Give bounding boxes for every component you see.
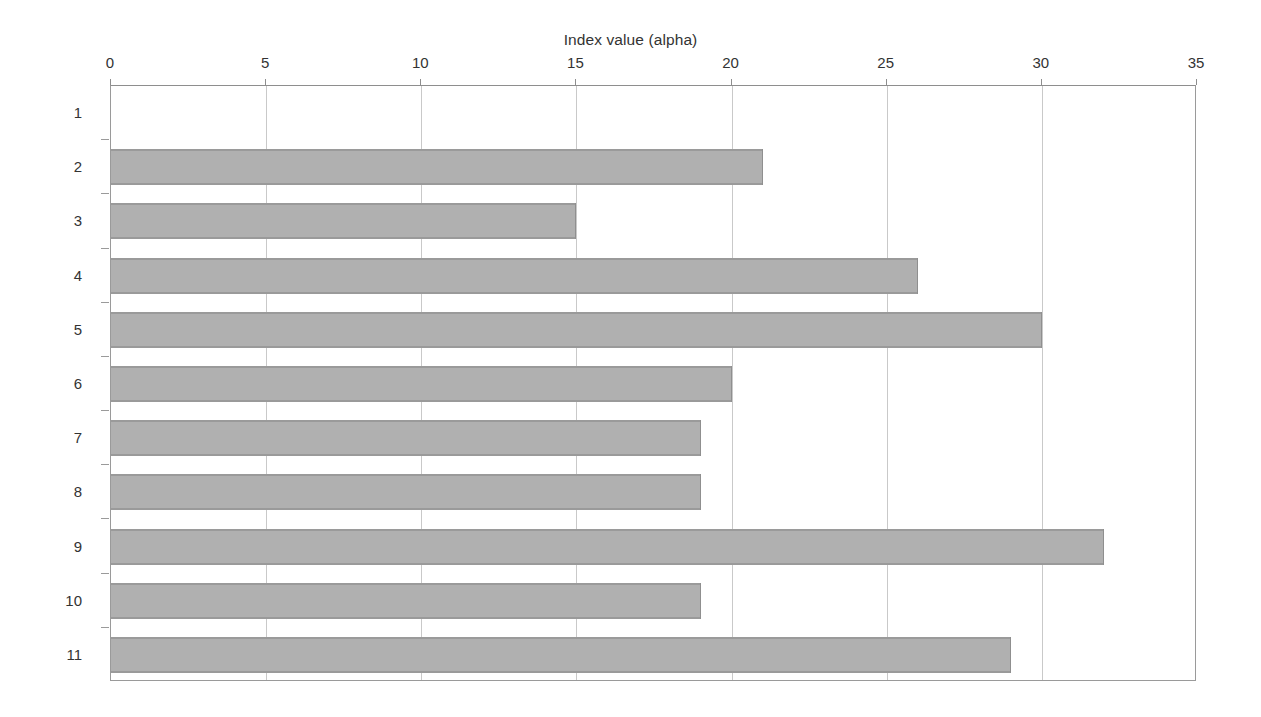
x-axis-tickmark <box>1196 79 1197 85</box>
x-axis-tickmark <box>420 79 421 85</box>
y-axis-tick-label: 5 <box>32 320 82 337</box>
y-axis-tickmark <box>101 573 109 574</box>
x-axis-tickmark <box>1041 79 1042 85</box>
y-axis-tick-label: 1 <box>32 104 82 121</box>
y-axis-tickmark <box>101 356 109 357</box>
x-axis-tick-label: 30 <box>1011 54 1071 71</box>
bar-sample-8 <box>111 474 701 510</box>
y-axis-tick-label: 9 <box>32 537 82 554</box>
gridline-x <box>887 86 888 680</box>
bar-sample-3 <box>111 203 576 239</box>
y-axis-tick-label: 4 <box>32 266 82 283</box>
y-axis-tick-label: 3 <box>32 212 82 229</box>
bar-sample-5 <box>111 312 1042 348</box>
bar-chart-figure: Index value (alpha) Sample number 051015… <box>0 0 1261 717</box>
y-axis-tick-label: 11 <box>32 645 82 662</box>
bar-sample-2 <box>111 149 763 185</box>
plot-area <box>110 85 1196 681</box>
y-axis-tickmark <box>101 302 109 303</box>
x-axis-tickmark <box>110 79 111 85</box>
y-axis-tick-label: 8 <box>32 483 82 500</box>
y-axis-tickmark <box>101 410 109 411</box>
y-axis-tick-label: 7 <box>32 429 82 446</box>
x-axis-tickmark <box>575 79 576 85</box>
bar-sample-6 <box>111 366 732 402</box>
x-axis-tick-label: 10 <box>390 54 450 71</box>
x-axis-tickmark <box>265 79 266 85</box>
y-axis-tickmark <box>101 627 109 628</box>
x-axis-tick-label: 20 <box>701 54 761 71</box>
y-axis-tick-label: 6 <box>32 375 82 392</box>
bar-sample-4 <box>111 258 918 294</box>
x-axis-tick-label: 25 <box>856 54 916 71</box>
x-axis-tick-label: 15 <box>545 54 605 71</box>
bar-sample-11 <box>111 637 1011 673</box>
x-axis-tickmark <box>731 79 732 85</box>
y-axis-tick-label: 2 <box>32 158 82 175</box>
bar-sample-9 <box>111 529 1104 565</box>
x-axis-tick-label: 5 <box>235 54 295 71</box>
bar-sample-7 <box>111 420 701 456</box>
x-axis-tickmark <box>886 79 887 85</box>
y-axis-tick-label: 10 <box>32 591 82 608</box>
y-axis-tickmark <box>101 464 109 465</box>
gridline-x <box>1042 86 1043 680</box>
y-axis-tickmark <box>101 193 109 194</box>
y-axis-tickmark <box>101 139 109 140</box>
gridline-x <box>1197 86 1198 680</box>
y-axis-tickmark <box>101 518 109 519</box>
bar-sample-10 <box>111 583 701 619</box>
x-axis-tick-label: 0 <box>80 54 140 71</box>
x-axis-title: Index value (alpha) <box>0 31 1261 49</box>
y-axis-tickmark <box>101 248 109 249</box>
x-axis-tick-label: 35 <box>1166 54 1226 71</box>
